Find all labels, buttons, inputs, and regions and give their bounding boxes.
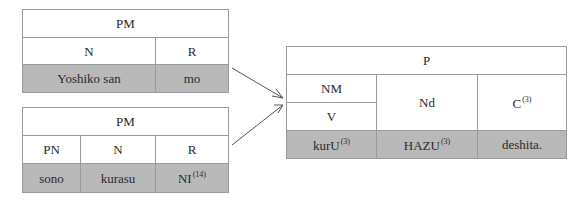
arrow-top-icon xyxy=(232,68,283,98)
arrows xyxy=(0,0,584,203)
arrow-bottom-icon xyxy=(232,105,283,145)
